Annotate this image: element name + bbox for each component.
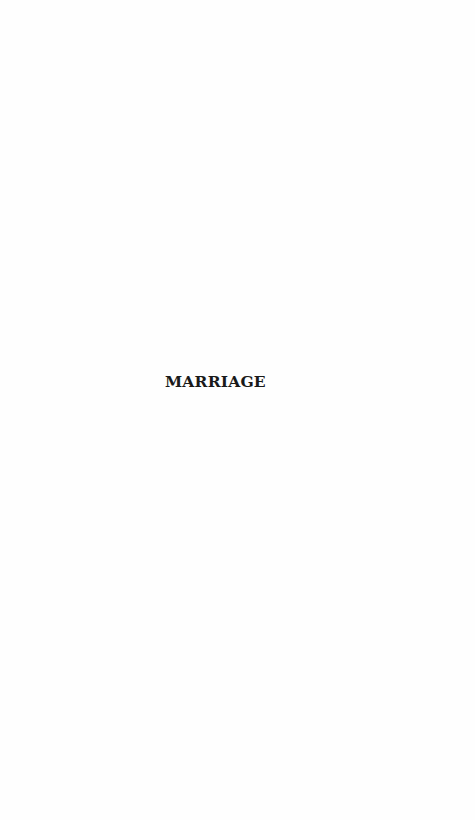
section-title: MARRIAGE xyxy=(165,372,249,392)
book-page: MARRIAGE xyxy=(0,0,475,820)
